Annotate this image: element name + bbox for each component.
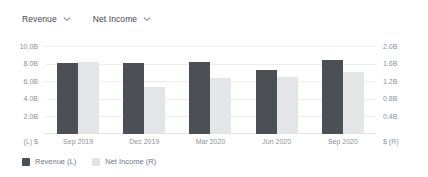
chevron-down-icon — [63, 15, 71, 23]
x-axis-tick-label: Sep 2019 — [63, 138, 93, 145]
legend-label-revenue: Revenue (L) — [35, 158, 76, 166]
y-axis-left-tick: 8.0B — [24, 60, 38, 67]
x-axis-tick-label: Jun 2020 — [262, 138, 291, 145]
metric-selector-toolbar: Revenue Net Income — [22, 10, 151, 28]
bar-revenue[interactable] — [256, 70, 277, 134]
bar-group[interactable] — [310, 46, 376, 134]
bar-net-income[interactable] — [277, 77, 298, 134]
bar-group[interactable] — [177, 46, 243, 134]
x-axis-labels: Sep 2019Dec 2019Mar 2020Jun 2020Sep 2020 — [45, 138, 376, 150]
bar-net-income[interactable] — [144, 87, 165, 134]
right-metric-label: Net Income — [93, 15, 137, 24]
y-axis-right-tick: 0.8B — [383, 95, 397, 102]
bar-net-income[interactable] — [78, 62, 99, 134]
y-axis-left-tick: 6.0B — [24, 78, 38, 85]
y-axis-right-tick: 2.0B — [383, 43, 397, 50]
bar-group[interactable] — [111, 46, 177, 134]
y-axis-left-unit: (L) $ — [24, 138, 38, 145]
bar-net-income[interactable] — [343, 72, 364, 134]
x-axis-tick-label: Dec 2019 — [129, 138, 159, 145]
legend-swatch-net-income — [92, 158, 100, 166]
legend-item-net-income[interactable]: Net Income (R) — [92, 158, 156, 166]
plot-area: 10.0B8.0B6.0B4.0B2.0B2.0B1.6B1.2B0.8B0.4… — [45, 46, 376, 134]
y-axis-left-tick: 10.0B — [20, 43, 38, 50]
bar-revenue[interactable] — [123, 63, 144, 134]
y-axis-right-tick: 1.2B — [383, 78, 397, 85]
left-metric-dropdown[interactable]: Revenue — [22, 15, 71, 24]
y-axis-left-tick: 2.0B — [24, 113, 38, 120]
bar-net-income[interactable] — [210, 78, 231, 134]
legend-item-revenue[interactable]: Revenue (L) — [22, 158, 76, 166]
bar-group[interactable] — [45, 46, 111, 134]
y-axis-right-tick: 1.6B — [383, 60, 397, 67]
legend-label-net-income: Net Income (R) — [105, 158, 156, 166]
chevron-down-icon — [143, 15, 151, 23]
chart-legend: Revenue (L) Net Income (R) — [22, 158, 156, 166]
y-axis-right-unit: $ (R) — [383, 138, 399, 145]
left-metric-label: Revenue — [22, 15, 57, 24]
x-axis-tick-label: Sep 2020 — [328, 138, 358, 145]
x-axis-tick-label: Mar 2020 — [196, 138, 226, 145]
bar-revenue[interactable] — [57, 63, 78, 134]
bar-revenue[interactable] — [189, 62, 210, 134]
legend-swatch-revenue — [22, 158, 30, 166]
y-axis-left-tick: 4.0B — [24, 95, 38, 102]
right-metric-dropdown[interactable]: Net Income — [93, 15, 151, 24]
y-axis-right-tick: 0.4B — [383, 113, 397, 120]
chart-widget: Revenue Net Income 10.0B8.0B6.0B4.0B2.0B… — [0, 0, 428, 177]
bar-group[interactable] — [244, 46, 310, 134]
bar-revenue[interactable] — [322, 60, 343, 134]
